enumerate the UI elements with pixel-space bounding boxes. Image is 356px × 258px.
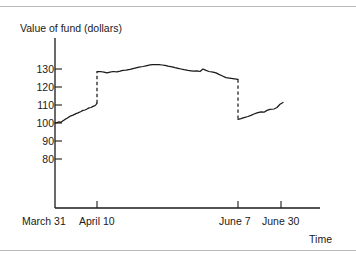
x-axis-title: Time bbox=[309, 233, 332, 245]
series-segment-three bbox=[238, 103, 283, 120]
y-axis-label-110: 110 bbox=[24, 100, 54, 111]
x-axis-label-march-31: March 31 bbox=[22, 216, 66, 227]
chart-figure: Value of fund (dollars) 130 120 110 100 … bbox=[0, 0, 356, 258]
y-axis-label-100: 100 bbox=[24, 118, 54, 129]
x-axis-label-june-30: June 30 bbox=[262, 216, 299, 227]
y-axis-label-130: 130 bbox=[24, 64, 54, 75]
y-axis-label-120: 120 bbox=[24, 82, 54, 93]
y-tick-marks bbox=[55, 69, 62, 159]
x-axis-label-april-10: April 10 bbox=[79, 216, 115, 227]
series-segment-one bbox=[55, 103, 97, 123]
y-axis-label-90: 90 bbox=[24, 136, 54, 147]
x-axis-label-june-7: June 7 bbox=[219, 216, 251, 227]
series-segment-two bbox=[97, 65, 238, 80]
x-tick-marks bbox=[97, 201, 281, 208]
axes-group bbox=[55, 38, 320, 208]
y-axis-label-80: 80 bbox=[24, 154, 54, 165]
